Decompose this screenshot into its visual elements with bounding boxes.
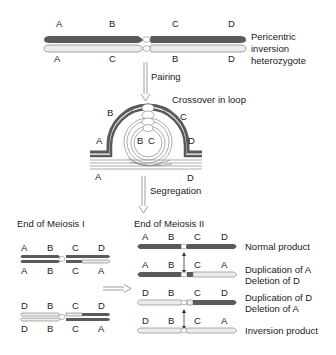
m1-label: C	[72, 300, 79, 311]
m2-label: D	[142, 287, 149, 298]
m2-label: D	[142, 315, 149, 326]
m1-label: C	[72, 265, 79, 276]
top-upper-label: A	[56, 18, 63, 29]
top-lower-label: D	[228, 53, 235, 64]
centromere-icon	[143, 46, 150, 52]
top-lower-label: A	[54, 53, 61, 64]
product-normal: A B C D Normal product	[138, 231, 311, 252]
product-duplication-d: D B C D Duplication of D Deletion of A	[138, 287, 313, 314]
m1-label: D	[98, 242, 105, 253]
right-arrow-icon	[103, 285, 131, 293]
loop-label: B	[107, 107, 113, 118]
top-dark-chromosome	[44, 36, 143, 43]
loop-label: D	[187, 172, 194, 183]
top-heterozygote: A B C D A C B D Pericentric inversion he…	[44, 18, 306, 66]
loop-label: A	[95, 171, 102, 182]
product-inversion: D B C A Inversion product	[138, 315, 319, 336]
product-description: Duplication of A	[245, 264, 312, 275]
loop-label: A	[96, 135, 103, 146]
m1-label: B	[47, 323, 53, 334]
product-description: Deletion of A	[245, 303, 300, 314]
loop-title: Crossover in loop	[172, 94, 246, 105]
crossover-loop: Crossover in loop B C A D B C A D	[90, 94, 246, 183]
m1-label: A	[98, 323, 105, 334]
m2-label: B	[168, 259, 174, 270]
product-description: Deletion of D	[245, 275, 300, 286]
meiosis-2-panel: End of Meiosis II A B C D Normal product…	[134, 218, 318, 336]
product-description: Inversion product	[245, 325, 318, 336]
meiosis-1-title: End of Meiosis I	[17, 218, 85, 229]
top-upper-label: D	[228, 18, 235, 29]
pericentric-inversion-diagram: A B C D A C B D Pericentric inversion he…	[0, 0, 336, 355]
m1-label: D	[98, 300, 105, 311]
m1-label: B	[47, 242, 53, 253]
pairing-arrow-icon	[141, 62, 150, 101]
centromere-icon	[59, 257, 65, 262]
m1-label: A	[98, 265, 105, 276]
meiosis-2-title: End of Meiosis II	[134, 218, 204, 229]
m1-label: B	[47, 265, 53, 276]
centromere-icon	[181, 300, 187, 305]
centromere-icon	[143, 37, 150, 43]
top-light-chromosome	[44, 45, 143, 52]
m1-label: D	[21, 323, 28, 334]
m1-label: C	[72, 323, 79, 334]
m2-label: C	[194, 231, 201, 242]
top-upper-label: B	[109, 18, 115, 29]
m2-label: C	[194, 259, 201, 270]
meiosis-1-panel: End of Meiosis I A B C D A B C A D B C D…	[17, 218, 110, 334]
m2-label: A	[142, 259, 149, 270]
segregation-label: Segregation	[150, 185, 201, 196]
m2-label: B	[168, 231, 174, 242]
pairing-label: Pairing	[151, 71, 181, 82]
top-lower-label: C	[109, 53, 116, 64]
centromere-icon	[59, 315, 65, 320]
product-description: Duplication of D	[245, 292, 312, 303]
segregation-arrow-icon	[139, 176, 148, 213]
m2-label: A	[221, 259, 228, 270]
caption-line: heterozygote	[251, 55, 306, 66]
m2-label: A	[221, 315, 228, 326]
top-upper-label: C	[172, 18, 179, 29]
m2-label: C	[194, 287, 201, 298]
product-duplication-a: A B C A Duplication of A Deletion of D	[138, 259, 312, 286]
m1-label: A	[21, 242, 28, 253]
m1-label: B	[47, 300, 53, 311]
caption-line: inversion	[251, 43, 289, 54]
m2-label: C	[194, 315, 201, 326]
m2-label: A	[142, 231, 149, 242]
m2-label: D	[221, 287, 228, 298]
m2-label: B	[168, 287, 174, 298]
centromere-icon	[143, 125, 153, 132]
double-arrow-icon	[182, 252, 186, 274]
loop-label: C	[148, 135, 155, 146]
m2-label: B	[168, 315, 174, 326]
centromere-icon	[181, 272, 187, 277]
double-arrow-icon	[182, 309, 186, 330]
m1-label: A	[21, 265, 28, 276]
m1-label: D	[21, 300, 28, 311]
caption-line: Pericentric	[251, 31, 296, 42]
product-description: Normal product	[245, 241, 310, 252]
loop-label: D	[188, 135, 195, 146]
top-lower-label: B	[172, 53, 178, 64]
loop-label: B	[137, 135, 143, 146]
m1-label: C	[72, 242, 79, 253]
m2-label: D	[221, 231, 228, 242]
loop-label: C	[180, 111, 187, 122]
